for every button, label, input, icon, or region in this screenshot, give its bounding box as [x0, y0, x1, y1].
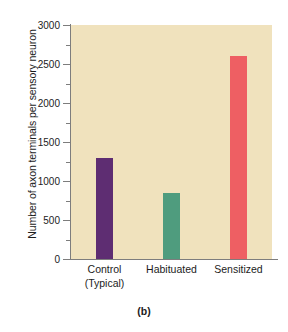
y-tick-major: [63, 142, 71, 143]
y-tick-minor: [66, 240, 71, 241]
y-tick-minor: [66, 84, 71, 85]
y-tick-major: [63, 25, 71, 26]
x-tick-label: Sensitized: [193, 263, 285, 277]
y-tick-label: 1500: [20, 137, 60, 148]
bar: [96, 158, 113, 259]
y-tick-label: 0: [20, 254, 60, 265]
y-tick-label: 1000: [20, 176, 60, 187]
y-tick-label: 2500: [20, 59, 60, 70]
y-tick-major: [63, 64, 71, 65]
y-tick-major: [63, 220, 71, 221]
y-tick-label: 2000: [20, 98, 60, 109]
y-tick-major: [63, 259, 71, 260]
figure-caption: (b): [0, 305, 288, 317]
y-tick-major: [63, 181, 71, 182]
y-tick-minor: [66, 162, 71, 163]
bar: [230, 56, 247, 259]
x-tick-label-line: Sensitized: [193, 263, 285, 277]
y-tick-major: [63, 103, 71, 104]
x-tick-label-line: (Typical): [59, 277, 151, 291]
bar: [163, 193, 180, 259]
y-tick-label: 500: [20, 215, 60, 226]
figure-panel-b: Number of axon terminals per sensory neu…: [0, 0, 288, 332]
y-tick-minor: [66, 123, 71, 124]
y-tick-label: 3000: [20, 20, 60, 31]
y-tick-minor: [66, 201, 71, 202]
y-tick-minor: [66, 45, 71, 46]
